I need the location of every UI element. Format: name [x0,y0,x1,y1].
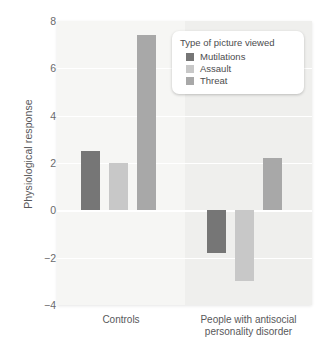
legend-label-mutilations: Mutilations [200,51,245,62]
bar-chart-figure: Physiological response 8 6 4 2 0 −2 −4 T… [0,0,332,349]
y-tick-label-4: 4 [16,110,56,122]
legend-item-mutilations[interactable]: Mutilations [186,51,296,62]
x-category-label-antisocial-line-1: personality disorder [185,326,312,338]
gridline-4 [57,116,312,117]
legend-item-threat[interactable]: Threat [186,75,296,86]
y-tick-label-0: 0 [16,204,56,216]
legend-swatch-threat [186,77,194,85]
legend-title: Type of picture viewed [180,37,296,48]
y-tick-label-minus-2: −2 [16,252,56,264]
legend-label-threat: Threat [200,75,227,86]
bar-assault-antisocial [235,210,254,281]
y-tick-label-2: 2 [16,157,56,169]
x-category-label-antisocial: People with antisocial personality disor… [185,314,312,338]
legend-label-assault: Assault [200,63,231,74]
bar-assault-controls [109,163,128,210]
y-tick-label-minus-4: −4 [16,299,56,311]
legend-swatch-mutilations [186,53,194,61]
x-category-label-controls-line-0: Controls [57,314,185,326]
bar-mutilations-controls [81,151,100,210]
x-category-label-controls: Controls [57,314,185,326]
y-tick-label-8: 8 [16,15,56,27]
x-category-label-antisocial-line-0: People with antisocial [185,314,312,326]
y-axis-title: Physiological response [22,54,34,254]
legend: Type of picture viewed Mutilations Assau… [172,31,304,94]
y-tick-label-6: 6 [16,62,56,74]
bar-threat-controls [137,35,156,210]
gridline-minus-2 [57,258,312,259]
bar-threat-antisocial [263,158,282,210]
legend-swatch-assault [186,65,194,73]
bar-mutilations-antisocial [207,210,226,253]
legend-item-assault[interactable]: Assault [186,63,296,74]
